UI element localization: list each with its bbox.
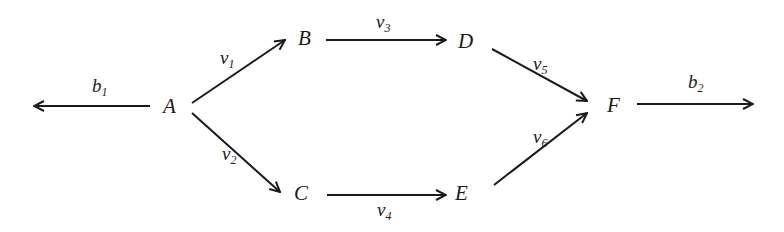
label-b2: b2 [688,71,704,95]
label-v2: v2 [222,143,236,167]
edge-a-b-arrow [192,40,285,103]
node-c: C [294,181,309,205]
label-v5: v5 [533,53,547,77]
node-b: B [298,26,311,50]
label-v1: v1 [220,47,234,71]
label-v4: v4 [377,199,391,223]
node-a: A [161,94,176,118]
label-v6: v6 [533,126,547,150]
label-b1: b1 [92,75,108,99]
node-f: F [606,93,620,117]
label-v3: v3 [376,11,390,35]
flow-diagram: A B C D E F b1 v1 v2 v3 v4 v5 v6 b2 [0,0,784,232]
node-e: E [454,181,468,205]
node-d: D [457,29,473,53]
